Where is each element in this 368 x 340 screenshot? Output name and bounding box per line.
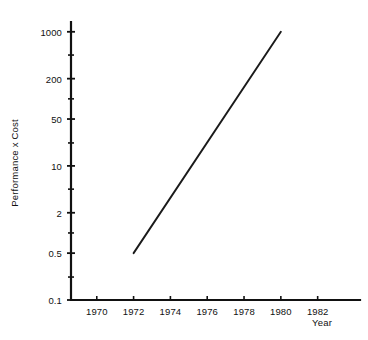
y-tick-label: 2 — [26, 207, 62, 218]
y-tick-label: 0.5 — [26, 248, 62, 259]
data-series-group — [134, 32, 281, 253]
x-tick-label: 1972 — [123, 306, 145, 317]
y-tick-label: 10 — [26, 160, 62, 171]
axes-group — [71, 22, 360, 300]
x-axis-title: Year — [312, 317, 332, 328]
y-axis-title: Performance x Cost — [9, 119, 20, 207]
axis-lines — [71, 22, 360, 300]
y-tick-label: 1000 — [26, 26, 62, 37]
x-tick-label: 1978 — [233, 306, 255, 317]
x-tick-label: 1982 — [307, 306, 329, 317]
chart-figure: 1000200501020.50.1 197019721974197619781… — [0, 0, 368, 340]
data-line-performance-x-cost — [134, 32, 281, 253]
x-tick-label: 1976 — [196, 306, 218, 317]
y-tick-label: 50 — [26, 114, 62, 125]
x-tick-label: 1970 — [86, 306, 108, 317]
y-tick-label: 0.1 — [26, 295, 62, 306]
x-tick-label: 1980 — [270, 306, 292, 317]
y-tick-label: 200 — [26, 73, 62, 84]
x-tick-label: 1974 — [160, 306, 182, 317]
